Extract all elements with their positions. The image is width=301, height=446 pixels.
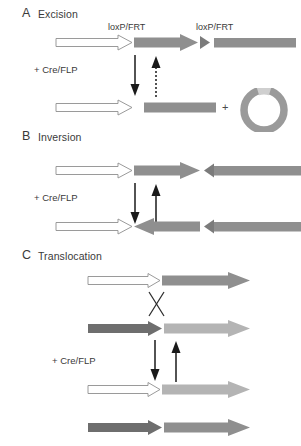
white-arrow-segment <box>56 163 132 178</box>
panel-a-site-label-right: loxP/FRT <box>196 22 233 32</box>
panel-a-reaction-arrows <box>125 55 167 97</box>
gray-arrow-floxed-segment <box>134 34 198 51</box>
panel-c-translocated-chromosome-2 <box>88 419 253 436</box>
circle-loxp-site-notch <box>258 91 270 92</box>
panel-c-enzyme-label: + Cre/FLP <box>52 355 96 366</box>
gray-bar-product <box>144 103 216 113</box>
white-arrow-segment <box>88 383 160 397</box>
light-gray-arrow-segment <box>162 381 250 398</box>
panel-c-letter: C <box>22 248 31 262</box>
panel-b-substrate-dna <box>56 162 301 179</box>
loxp-site-arrowhead-left <box>204 220 214 234</box>
panel-b-enzyme-label: + Cre/FLP <box>34 192 78 203</box>
panel-a-substrate-dna <box>56 34 296 51</box>
reverse-arrow-head <box>172 341 181 353</box>
forward-arrow-head <box>151 369 160 381</box>
gray-arrow-inverted-segment <box>134 218 200 235</box>
panel-c-crossover-symbol <box>146 290 168 318</box>
gray-arrow-segment <box>164 419 250 436</box>
panel-b-letter: B <box>22 129 31 143</box>
panel-b-product-inverted-dna <box>56 218 301 235</box>
dark-gray-arrow-segment <box>88 420 162 435</box>
panel-a-letter: A <box>22 6 31 20</box>
gray-bar-downstream <box>214 166 301 176</box>
panel-c-chromosome-2-substrate <box>88 320 253 337</box>
figure-canvas: A Excision loxP/FRT loxP/FRT + Cre/FLP <box>0 0 301 446</box>
white-arrow-segment <box>56 35 132 50</box>
panel-c-title: Translocation <box>38 250 102 262</box>
reverse-arrow-head <box>152 56 161 68</box>
gray-arrow-segment <box>162 272 250 289</box>
panel-a-excised-circle-dna <box>240 88 288 136</box>
dark-gray-arrow-segment <box>88 321 162 336</box>
gray-bar-downstream <box>214 222 301 232</box>
panel-c-translocated-chromosome-1 <box>88 381 253 398</box>
panel-a-product-linear-dna <box>56 99 216 116</box>
panel-a-plus-sign: + <box>222 101 228 113</box>
white-arrow-segment <box>88 274 160 288</box>
loxp-site-arrowhead-left <box>204 164 214 178</box>
forward-arrow-head <box>131 84 140 96</box>
panel-b-title: Inversion <box>38 131 82 143</box>
gray-arrow-invertible-segment <box>134 162 200 179</box>
panel-c-reaction-arrows <box>145 340 187 382</box>
light-gray-arrow-segment <box>164 320 250 337</box>
panel-a-enzyme-label: + Cre/FLP <box>34 64 78 75</box>
loxp-site-arrowhead-right <box>200 36 210 49</box>
white-arrow-segment <box>56 219 132 234</box>
panel-a-site-label-left: loxP/FRT <box>108 22 145 32</box>
reverse-arrow-head <box>152 184 161 196</box>
panel-c-chromosome-1-substrate <box>88 272 253 289</box>
white-arrow-segment-product <box>56 100 132 115</box>
panel-a-title: Excision <box>38 8 78 20</box>
gray-bar-downstream <box>214 38 296 48</box>
